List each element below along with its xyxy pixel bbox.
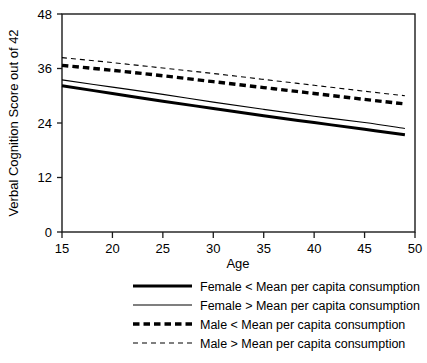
legend-item-label: Female < Mean per capita consumption [200,280,420,294]
y-tick-label: 24 [38,116,52,131]
x-tick-label: 50 [408,241,422,256]
line-chart-canvas: 012243648 1520253035404550 Verbal Cognit… [0,0,427,363]
x-tick-label: 45 [357,241,371,256]
y-tick-label: 12 [38,170,52,185]
x-tick-label: 35 [256,241,270,256]
x-tick-label: 30 [206,241,220,256]
y-tick-label: 36 [38,61,52,76]
x-tick-label: 20 [105,241,119,256]
x-tick-label: 40 [307,241,321,256]
chart-figure: 012243648 1520253035404550 Verbal Cognit… [0,0,427,363]
y-axis-title: Verbal Cognition Score out of 42 [6,29,21,216]
x-tick-label: 25 [156,241,170,256]
legend-item-label: Female > Mean per capita consumption [200,299,420,313]
x-axis-title: Age [226,256,249,271]
y-tick-label: 48 [38,7,52,22]
x-tick-label: 15 [55,241,69,256]
legend-item-label: Male < Mean per capita consumption [200,318,405,332]
legend-item-label: Male > Mean per capita consumption [200,337,405,351]
y-tick-label: 0 [45,225,52,240]
